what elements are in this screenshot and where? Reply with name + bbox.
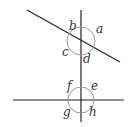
transversal-line bbox=[27, 10, 120, 62]
angle-label-b: b bbox=[69, 19, 77, 33]
angle-label-c: c bbox=[62, 45, 69, 59]
angle-label-e: e bbox=[91, 79, 98, 93]
angle-label-h: h bbox=[89, 105, 97, 119]
angle-diagram: a b c d e f g h bbox=[0, 0, 134, 127]
angle-label-a: a bbox=[96, 22, 103, 36]
angle-label-d: d bbox=[83, 52, 91, 66]
angle-label-f: f bbox=[66, 79, 74, 93]
angle-label-g: g bbox=[63, 105, 71, 119]
